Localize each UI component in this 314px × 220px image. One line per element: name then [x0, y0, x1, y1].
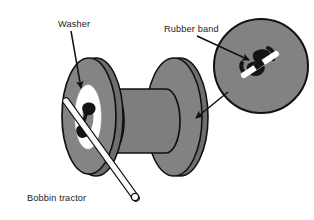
- bobbin-tractor-figure: Washer Rubber band Bobbin tractor: [0, 0, 314, 220]
- tractor-stick-tip: [131, 193, 138, 200]
- rubber-band-label: Rubber band: [164, 24, 219, 34]
- diagram-canvas: Washer Rubber band Bobbin tractor: [0, 0, 314, 220]
- detail-circle-group: [214, 19, 308, 113]
- washer-label: Washer: [58, 19, 90, 29]
- caption-bobbin-tractor: Bobbin tractor: [27, 193, 86, 203]
